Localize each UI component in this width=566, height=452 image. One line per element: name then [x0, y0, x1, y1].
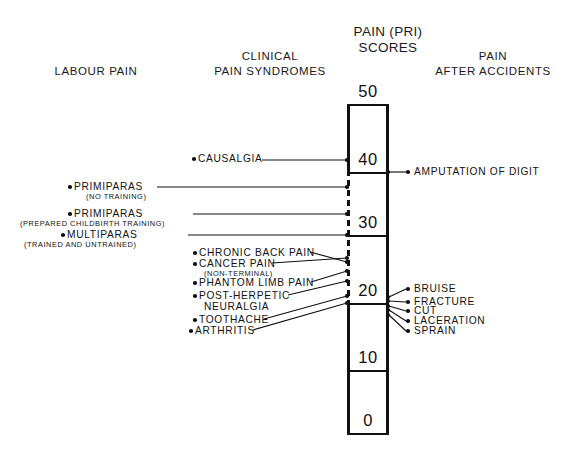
label-chronic-back-pain: CHRONIC BACK PAIN	[199, 247, 315, 258]
label-cancer-pain: CANCER PAIN	[199, 258, 276, 269]
scale-tick-30: 30	[347, 213, 389, 232]
bullet-cut	[406, 309, 410, 313]
bullet-cancer-pain	[193, 262, 197, 266]
scale-tick-10: 10	[347, 348, 389, 367]
scale-dot-laceration	[386, 308, 390, 312]
figure-canvas: PAIN (PRI) SCORES LABOUR PAIN CLINICAL P…	[0, 0, 566, 452]
sublabel-multiparas: (TRAINED AND UNTRAINED)	[24, 240, 136, 249]
sublabel-primiparas-no-training: (NO TRAINING)	[86, 192, 146, 201]
label-toothache: TOOTHACHE	[199, 314, 269, 325]
scale-rule-10	[347, 370, 389, 372]
scale-tick-0: 0	[347, 411, 389, 430]
bullet-toothache	[193, 318, 197, 322]
bullet-multiparas	[61, 233, 65, 237]
scale-rule-40	[347, 172, 389, 174]
pri-scale-bar: 50 40 30 20 10 0	[347, 104, 389, 435]
scale-rule-bottom	[347, 433, 389, 435]
label-primiparas-no-training: PRIMIPARAS	[74, 181, 143, 192]
scale-dot-primiparas-no-training	[345, 185, 349, 189]
label-sprain: SPRAIN	[414, 325, 456, 336]
bullet-phantom-limb-pain	[193, 281, 197, 285]
scale-tick-50: 50	[347, 82, 389, 101]
scale-dot-causalgia	[345, 158, 349, 162]
bullet-primiparas-no-training	[68, 185, 72, 189]
scale-rule-20	[347, 303, 389, 305]
scale-dot-phantom-limb-pain	[345, 269, 349, 273]
bullet-laceration	[406, 319, 410, 323]
scale-tick-40: 40	[347, 150, 389, 169]
bullet-amputation-of-digit	[406, 170, 410, 174]
label-post-herpetic: POST-HERPETIC	[199, 290, 290, 301]
bullet-chronic-back-pain	[193, 251, 197, 255]
scale-dot-post-herpetic-neuralgia	[345, 279, 349, 283]
scale-rule-30	[347, 235, 389, 237]
bullet-bruise	[406, 287, 410, 291]
scale-dot-fracture	[386, 299, 390, 303]
bullet-post-herpetic-neuralgia	[193, 294, 197, 298]
label-primiparas-prepared: PRIMIPARAS	[74, 208, 143, 219]
scale-dot-sprain	[386, 313, 390, 317]
label-phantom-limb-pain: PHANTOM LIMB PAIN	[199, 277, 314, 288]
label-multiparas: MULTIPARAS	[67, 229, 138, 240]
scale-rule-top	[347, 104, 389, 106]
scale-dot-amputation	[386, 170, 390, 174]
bullet-causalgia	[192, 157, 196, 161]
label-causalgia: CAUSALGIA	[198, 153, 263, 164]
label-neuralgia: NEURALGIA	[204, 301, 269, 312]
label-bruise: BRUISE	[414, 283, 456, 294]
scale-dot-toothache	[345, 294, 349, 298]
sublabel-primiparas-prepared: (PREPARED CHILDBIRTH TRAINING)	[20, 219, 165, 228]
bullet-arthritis	[189, 329, 193, 333]
scale-dot-primiparas-prepared	[345, 212, 349, 216]
label-amputation-of-digit: AMPUTATION OF DIGIT	[414, 166, 540, 177]
bullet-sprain	[406, 329, 410, 333]
scale-dot-multiparas	[345, 233, 349, 237]
scale-dot-arthritis	[345, 301, 349, 305]
label-arthritis: ARTHRITIS	[195, 325, 255, 336]
bullet-fracture	[406, 300, 410, 304]
bullet-primiparas-prepared	[68, 212, 72, 216]
scale-tick-20: 20	[347, 281, 389, 300]
scale-dot-chronic-back-pain	[345, 260, 349, 264]
